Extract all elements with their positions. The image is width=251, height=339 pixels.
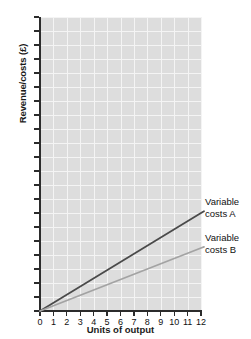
gridline-vertical	[201, 17, 202, 311]
y-axis-tick	[34, 72, 39, 73]
x-axis-tick	[120, 311, 121, 316]
series-label-b-line1: Variable	[205, 232, 239, 244]
y-axis-tick	[34, 268, 39, 269]
x-axis-tick	[80, 311, 81, 316]
x-axis-tick	[174, 311, 175, 316]
x-axis-tick	[93, 311, 94, 316]
y-axis-tick	[34, 128, 39, 129]
gridline-vertical	[107, 17, 108, 311]
gridline-vertical	[161, 17, 162, 311]
plot-area	[40, 17, 201, 311]
y-axis-tick	[34, 254, 39, 255]
y-axis-tick	[34, 100, 39, 101]
y-axis-tick	[34, 212, 39, 213]
y-axis-tick	[34, 142, 39, 143]
x-axis-tick	[200, 311, 201, 316]
x-axis-title: Units of output	[40, 324, 201, 335]
series-label-a-line1: Variable	[205, 196, 239, 208]
gridline-vertical	[67, 17, 68, 311]
series-label-b-line2: costs B	[205, 244, 239, 256]
gridline-vertical	[174, 17, 175, 311]
x-axis-tick	[66, 311, 67, 316]
chart-figure: Revenue/costs (£) 0102030405060708090100…	[0, 0, 251, 339]
y-axis-tick	[34, 240, 39, 241]
y-axis-tick	[34, 114, 39, 115]
series-label-variable-costs-a: Variable costs A	[205, 196, 239, 220]
y-axis-tick	[34, 86, 39, 87]
gridline-vertical	[147, 17, 148, 311]
x-axis-tick	[106, 311, 107, 316]
gridline-vertical	[80, 17, 81, 311]
y-axis-tick	[34, 58, 39, 59]
x-axis-tick	[133, 311, 134, 316]
x-axis-tick	[147, 311, 148, 316]
y-axis-tick	[34, 16, 39, 17]
y-axis-tick	[34, 156, 39, 157]
x-axis-tick	[53, 311, 54, 316]
gridline-vertical	[121, 17, 122, 311]
x-axis-tick	[187, 311, 188, 316]
y-axis-line	[39, 17, 41, 312]
y-axis-tick	[34, 44, 39, 45]
x-axis-tick	[160, 311, 161, 316]
series-label-variable-costs-b: Variable costs B	[205, 232, 239, 256]
y-axis-tick	[34, 296, 39, 297]
series-label-a-line2: costs A	[205, 208, 239, 220]
gridline-vertical	[94, 17, 95, 311]
gridline-vertical	[53, 17, 54, 311]
gridline-vertical	[134, 17, 135, 311]
y-axis-tick	[34, 30, 39, 31]
y-axis-tick	[34, 310, 39, 311]
x-axis-tick	[39, 311, 40, 316]
gridline-vertical	[188, 17, 189, 311]
y-axis-tick	[34, 198, 39, 199]
y-axis-tick	[34, 282, 39, 283]
y-axis-title: Revenue/costs (£)	[17, 14, 28, 154]
y-axis-tick	[34, 184, 39, 185]
y-axis-tick	[34, 170, 39, 171]
y-axis-tick	[34, 226, 39, 227]
